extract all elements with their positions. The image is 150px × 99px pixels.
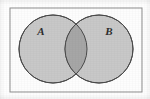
set-label-a: A [36,25,44,37]
venn-diagram-canvas: A B [0,0,150,99]
set-label-b: B [104,25,112,37]
venn-diagram-figure: A B [0,0,150,99]
